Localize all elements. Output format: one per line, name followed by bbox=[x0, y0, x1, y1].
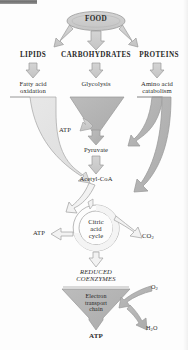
funnel-glycolysis bbox=[70, 97, 124, 145]
atp-glycolysis-label: ATP bbox=[52, 126, 78, 133]
process-amino-acid-catabolism: Amino acid catabolism bbox=[129, 80, 185, 94]
arrow-proteins-to-amino-acid-catabolism bbox=[150, 63, 164, 78]
o2-label: O2 bbox=[151, 284, 175, 291]
atp-cycle-label: ATP bbox=[26, 229, 52, 236]
heading-proteins: PROTEINS bbox=[132, 52, 186, 60]
electron-transport-chain-label: Electron transport chain bbox=[70, 293, 122, 313]
heading-lipids: LIPIDS bbox=[8, 52, 58, 60]
citric-acid-cycle-label: Citric acid cycle bbox=[78, 218, 114, 239]
figure-canvas: FOOD LIPIDS CARBOHYDRATES PROTEINS Fatty… bbox=[0, 0, 188, 350]
arrow-cycle-to-reduced-coenzymes bbox=[89, 252, 103, 267]
arrow-food-to-lipids bbox=[54, 25, 73, 47]
atp-etc-label: ATP bbox=[80, 333, 112, 340]
process-fatty-acid-oxidation: Fatty acid oxidation bbox=[5, 80, 61, 94]
arrow-food-to-carbohydrates bbox=[88, 31, 105, 50]
arrow-etc-to-h2o bbox=[127, 305, 147, 330]
process-glycolysis: Glycolysis bbox=[70, 80, 122, 87]
co2-label: CO2 bbox=[142, 232, 170, 240]
reduced-coenzymes-label: REDUCED COENZYMES bbox=[58, 268, 134, 282]
acetyl-coa-label: Acetyl-CoA bbox=[68, 175, 124, 182]
food-label: FOOD bbox=[66, 16, 126, 24]
arrow-amino-acid-to-pyruvate bbox=[128, 97, 163, 146]
arrow-pyruvate-to-acetyl-coa bbox=[89, 156, 104, 174]
arrow-cycle-to-atp bbox=[51, 228, 73, 240]
arrow-food-to-proteins bbox=[119, 25, 138, 47]
pyruvate-label: Pyruvate bbox=[72, 146, 120, 153]
h2o-label: H2O bbox=[146, 325, 176, 332]
arrow-lipids-to-fatty-acid-oxidation bbox=[26, 63, 40, 78]
heading-carbohydrates: CARBOHYDRATES bbox=[56, 52, 136, 60]
arrow-carbohydrates-to-glycolysis bbox=[89, 63, 103, 78]
